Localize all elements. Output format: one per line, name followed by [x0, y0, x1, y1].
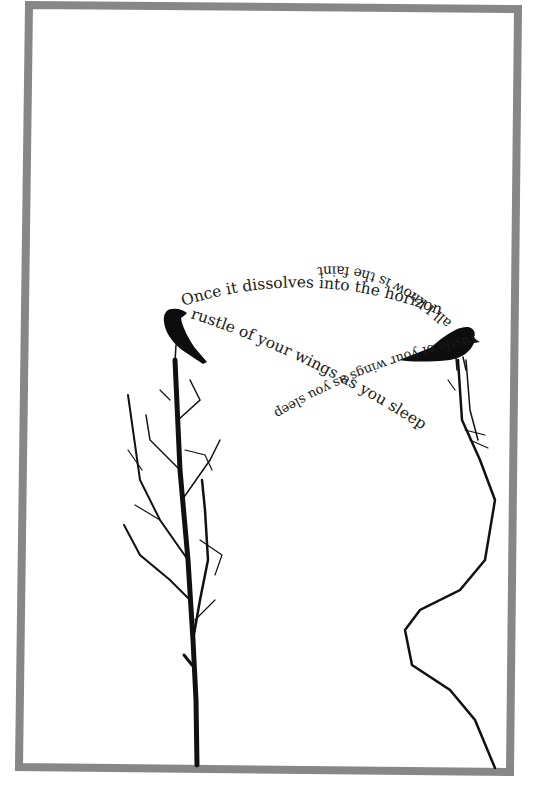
- poem-artwork: Once it dissolves into the horizon all I…: [0, 0, 539, 803]
- poem-line-3: rustle of your wings as you sleep: [189, 305, 430, 434]
- left-tree: [124, 360, 222, 765]
- picture-frame: [19, 5, 518, 772]
- poem-line-4: rustle of your wings as you sleep: [272, 332, 478, 422]
